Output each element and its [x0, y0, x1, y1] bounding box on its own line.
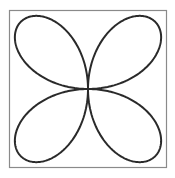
rose-curve-figure: [0, 0, 175, 178]
four-petal-rose-curve: [15, 16, 161, 162]
